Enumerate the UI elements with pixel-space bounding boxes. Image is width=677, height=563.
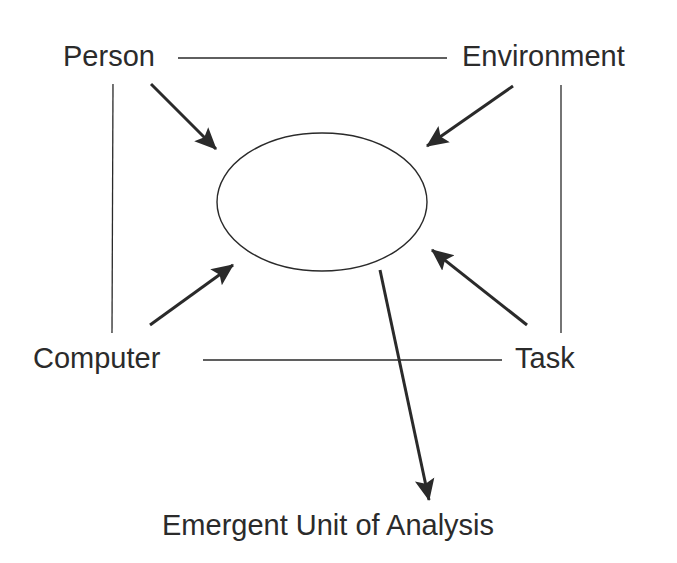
- diagram-canvas: [0, 0, 677, 563]
- node-person: Person: [63, 42, 155, 71]
- node-task: Task: [515, 344, 575, 373]
- line-person-computer: [112, 84, 113, 333]
- center-ellipse: [217, 133, 427, 271]
- node-environment: Environment: [462, 42, 625, 71]
- arrow-environment-to-center: [427, 86, 513, 146]
- arrow-task-to-center: [432, 250, 527, 325]
- node-emergent-unit-of-analysis: Emergent Unit of Analysis: [162, 511, 494, 540]
- arrow-person-to-center: [151, 84, 216, 149]
- arrow-computer-to-center: [150, 265, 233, 325]
- arrow-center-to-output: [380, 270, 429, 500]
- node-computer: Computer: [33, 344, 160, 373]
